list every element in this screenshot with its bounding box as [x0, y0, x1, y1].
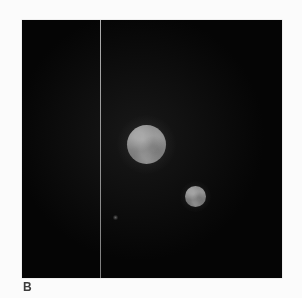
image-panel: [22, 20, 282, 278]
slit-line: [100, 20, 101, 278]
source-faint: [113, 215, 118, 220]
source-secondary: [185, 186, 206, 207]
panel-label: B: [23, 281, 32, 293]
figure-root: B: [0, 0, 302, 298]
source-secondary-texture: [185, 186, 206, 207]
source-faint-core: [113, 215, 118, 220]
source-primary: [127, 125, 166, 164]
source-primary-texture: [127, 125, 166, 164]
